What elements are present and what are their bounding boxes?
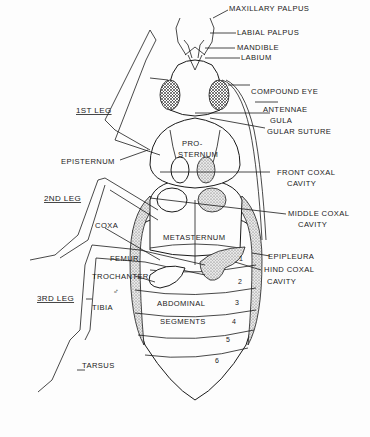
label-middle-coxal-cavity: CAVITY [298, 220, 327, 229]
label-abdominal: ABDOMINAL [157, 299, 205, 308]
maxillary-palpus [204, 18, 214, 55]
segment-number: 3 [235, 299, 239, 306]
label-episternum: EPISTERNUM [61, 157, 115, 166]
label-femur: FEMUR [110, 254, 139, 263]
compound-eye-left [160, 80, 180, 110]
label-labial-palpus: LABIAL PALPUS [237, 28, 299, 37]
label-tarsus: TARSUS [82, 361, 115, 370]
segment-number: 6 [215, 357, 219, 364]
label-hind-coxal-cavity: CAVITY [267, 277, 296, 286]
label-middle-coxal: MIDDLE COXAL [288, 209, 349, 218]
label-first-leg: 1ST LEG [76, 106, 112, 115]
label-tibia: TIBIA [92, 303, 114, 312]
segment-number: 2 [238, 278, 242, 285]
first-leg [105, 30, 160, 155]
label-maxillary-palpus: MAXILLARY PALPUS [229, 4, 309, 13]
middle-coxal-cavity [198, 188, 226, 212]
label-trochanter: TROCHANTER [92, 272, 149, 281]
label-segments: SEGMENTS [160, 317, 206, 326]
label-coxa: COXA [95, 221, 119, 230]
label-second-leg: 2ND LEG [44, 194, 81, 203]
middle-coxa-left [157, 188, 187, 212]
label-front-coxal: FRONT COXAL [277, 168, 335, 177]
label-compound-eye: COMPOUND EYE [251, 87, 318, 96]
segment-number: 1 [239, 255, 243, 262]
beetle-drawing: MAXILLARY PALPUS LABIAL PALPUS MANDIBLE … [0, 0, 370, 437]
label-mandible: MANDIBLE [237, 43, 279, 52]
label-metasternum: METASTERNUM [163, 233, 225, 242]
label-antennae: ANTENNAE [263, 105, 308, 114]
segment-number: 5 [226, 336, 230, 343]
label-prosternum-2: STERNUM [178, 150, 218, 159]
label-gula: GULA [270, 116, 293, 125]
compound-eye-right [209, 80, 229, 110]
label-third-leg: 3RD LEG [37, 294, 74, 303]
front-coxa-left [171, 157, 189, 183]
segment-number: 4 [232, 318, 236, 325]
label-labium: LABIUM [241, 53, 272, 62]
label-epipleura: EPIPLEURA [268, 252, 315, 261]
beetle-diagram: MAXILLARY PALPUS LABIAL PALPUS MANDIBLE … [0, 0, 370, 437]
sex-symbol: ♂ [113, 287, 119, 296]
label-hind-coxal: HIND COXAL [264, 265, 314, 274]
front-coxal-cavity [197, 157, 215, 183]
label-gular-suture: GULAR SUTURE [267, 127, 331, 136]
labial-palpus [198, 40, 204, 58]
label-front-coxal-cavity: CAVITY [287, 179, 316, 188]
label-prosternum-1: PRO- [182, 139, 203, 148]
